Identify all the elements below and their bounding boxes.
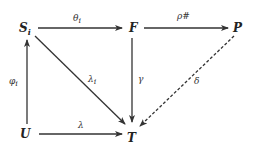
label-lambda-i: λi (87, 74, 97, 86)
commutative-diagram: Si F P U T θi ρ# φi λi γ δ λ (0, 0, 255, 146)
arrow-lambda-i (35, 36, 125, 124)
label-gamma: γ (138, 74, 144, 84)
arrow-delta (140, 36, 234, 126)
node-P: P (232, 21, 243, 35)
label-rho: ρ# (176, 11, 190, 21)
label-delta: δ (194, 76, 199, 86)
label-theta: θi (73, 13, 81, 25)
node-F: F (128, 21, 139, 35)
label-phi: φi (9, 76, 18, 88)
node-S: Si (19, 21, 31, 37)
label-lambda: λ (77, 120, 84, 130)
node-T: T (127, 131, 137, 145)
node-U: U (20, 127, 32, 141)
